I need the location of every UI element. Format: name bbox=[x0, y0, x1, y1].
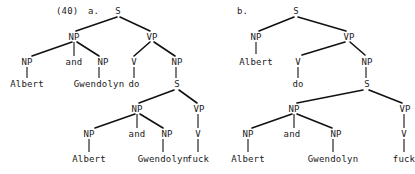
edge-a-emb-s-np bbox=[139, 90, 174, 103]
edge-a-np-npright bbox=[77, 42, 99, 56]
node-a-vp-embedded: VP bbox=[193, 105, 204, 114]
node-b-np-embedded-right: NP bbox=[330, 130, 341, 139]
terminal-a-do: do bbox=[128, 80, 139, 89]
node-a-s-embedded: S bbox=[174, 80, 180, 89]
edge-b-vp-np bbox=[350, 42, 365, 55]
node-a-conjunction: and bbox=[66, 58, 83, 67]
edge-b-emb-np-npright bbox=[297, 114, 332, 128]
node-a-vp-top: VP bbox=[146, 33, 157, 42]
edge-b-vp-v bbox=[302, 42, 345, 55]
node-b-vp-embedded: VP bbox=[399, 105, 410, 114]
tree-b-letter: b. bbox=[237, 7, 248, 16]
node-a-np-right-conjunct: NP bbox=[97, 58, 108, 67]
terminal-a-albert-lower: Albert bbox=[72, 155, 106, 164]
node-a-v-top: V bbox=[131, 58, 137, 67]
node-a-np-embedded-subject: NP bbox=[131, 105, 142, 114]
edge-a-s-np bbox=[76, 17, 117, 31]
tree-branch-lines bbox=[0, 0, 415, 174]
edge-a-emb-np-npright bbox=[140, 114, 163, 128]
terminal-b-albert-upper: Albert bbox=[239, 58, 273, 67]
terminal-b-gwendolyn-lower: Gwendolyn bbox=[308, 155, 359, 164]
node-a-np-object: NP bbox=[171, 58, 182, 67]
node-a-v-embedded: V bbox=[195, 130, 201, 139]
node-a-np-embedded-right: NP bbox=[161, 130, 172, 139]
node-a-np-left-conjunct: NP bbox=[21, 58, 32, 67]
terminal-a-gwendolyn-lower: Gwendolyn bbox=[138, 155, 189, 164]
edge-b-emb-np-npleft bbox=[252, 114, 292, 128]
node-b-np-object: NP bbox=[361, 58, 372, 67]
node-a-np-subject: NP bbox=[68, 33, 79, 42]
node-b-np-subject: NP bbox=[250, 33, 261, 42]
node-a-np-embedded-left: NP bbox=[83, 130, 94, 139]
node-b-vp-top: VP bbox=[343, 33, 354, 42]
node-b-np-embedded-subject: NP bbox=[288, 105, 299, 114]
terminal-a-fuck: fuck bbox=[187, 155, 209, 164]
edge-a-emb-s-vp bbox=[179, 90, 197, 103]
terminal-a-gwendolyn-upper: Gwendolyn bbox=[74, 80, 125, 89]
terminal-b-do: do bbox=[292, 80, 303, 89]
terminal-a-albert-upper: Albert bbox=[10, 80, 44, 89]
edge-a-s-vp bbox=[120, 17, 150, 31]
edge-a-emb-np-npleft bbox=[95, 114, 135, 128]
tree-a-letter: a. bbox=[88, 7, 99, 16]
example-number: (40) bbox=[56, 7, 78, 16]
syntax-tree-figure: (40) a. b. S NP VP NP and NP V NP Albert… bbox=[0, 0, 415, 174]
terminal-b-albert-lower: Albert bbox=[231, 155, 265, 164]
node-b-v-embedded: V bbox=[401, 130, 407, 139]
node-b-s-top: S bbox=[293, 7, 299, 16]
node-b-s-embedded: S bbox=[364, 80, 370, 89]
edge-a-np-npleft bbox=[32, 42, 72, 56]
node-b-np-embedded-left: NP bbox=[242, 130, 253, 139]
edge-b-emb-s-vp bbox=[369, 90, 402, 103]
edge-b-emb-s-np bbox=[297, 90, 363, 103]
terminal-b-fuck: fuck bbox=[393, 155, 415, 164]
node-b-v-top: V bbox=[295, 58, 301, 67]
edge-b-s-vp bbox=[298, 17, 346, 31]
edge-a-vp-np bbox=[154, 42, 175, 56]
node-a-conjunction-embedded: and bbox=[129, 130, 146, 139]
edge-b-s-np bbox=[259, 17, 294, 31]
edge-a-vp-v bbox=[134, 42, 150, 56]
node-b-conjunction-embedded: and bbox=[284, 130, 301, 139]
node-a-s-top: S bbox=[115, 7, 121, 16]
